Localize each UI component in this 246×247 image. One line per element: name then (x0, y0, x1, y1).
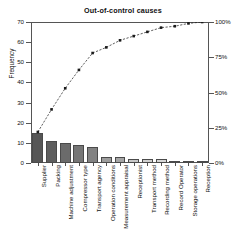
y-tick-label-right: 50% (215, 90, 243, 96)
x-tick (188, 163, 189, 166)
x-tick (202, 163, 203, 166)
y-tick-label-left: 10 (0, 140, 24, 146)
bar-series (31, 22, 209, 163)
x-axis-label: Recording method (163, 165, 171, 247)
bar (46, 141, 57, 163)
y-tick-label-left: 20 (0, 120, 24, 126)
y-tick-label-left: 0 (0, 160, 24, 166)
y-tick-right (209, 93, 214, 94)
y-tick-label-left: 30 (0, 100, 24, 106)
x-axis-label: Reception (204, 165, 212, 247)
x-tick (38, 163, 39, 166)
y-tick-label-left: 50 (0, 59, 24, 65)
x-tick (120, 163, 121, 166)
x-axis-label: Operation conditions (109, 165, 117, 247)
x-axis-label: Receptionist (136, 165, 144, 247)
x-axis-label: Compressor type (81, 165, 89, 247)
bar (60, 143, 71, 163)
x-axis-label: Supplier (40, 165, 48, 247)
x-tick (134, 163, 135, 166)
bar (73, 145, 84, 163)
y-tick-label-left: 60 (0, 39, 24, 45)
x-axis-label: Packing (54, 165, 62, 247)
x-axis-label: Transport method (150, 165, 158, 247)
x-tick (52, 163, 53, 166)
x-tick (79, 163, 80, 166)
y-tick-label-left: 40 (0, 79, 24, 85)
x-axis-label: Transport agency (95, 165, 103, 247)
y-tick-label-right: 0% (215, 160, 243, 166)
y-tick-right (209, 163, 214, 164)
x-tick (93, 163, 94, 166)
x-axis-label: Machine adjustment (67, 165, 75, 247)
chart-title: Out-of-control causes (0, 6, 246, 15)
x-tick (65, 163, 66, 166)
y-tick-right (209, 128, 214, 129)
y-tick-right (209, 57, 214, 58)
x-tick (147, 163, 148, 166)
x-axis-label: Storage operations (191, 165, 199, 247)
y-tick-label-right: 25% (215, 125, 243, 131)
y-tick-left (26, 163, 31, 164)
bar (32, 133, 43, 163)
x-tick (175, 163, 176, 166)
pareto-chart: Out-of-control causes Frequency Cumulati… (0, 0, 246, 247)
x-axis-label: Record Operator (177, 165, 185, 247)
x-axis-label: Measurement appraisal (122, 165, 130, 247)
y-tick-right (209, 22, 214, 23)
y-tick-label-right: 75% (215, 54, 243, 60)
y-tick-label-left: 70 (0, 19, 24, 25)
x-tick (106, 163, 107, 166)
x-axis-category-labels: SupplierPackingMachine adjustmentCompres… (31, 165, 209, 247)
bar (87, 147, 98, 163)
y-tick-label-right: 100% (215, 19, 243, 25)
x-tick (161, 163, 162, 166)
